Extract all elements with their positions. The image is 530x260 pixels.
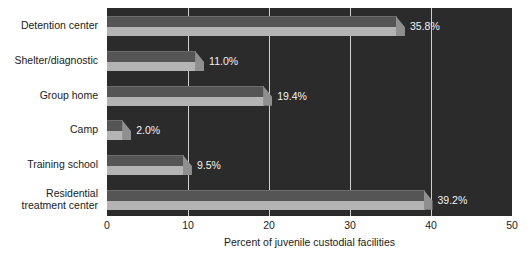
bar [107,120,123,140]
bar-value-label: 9.5% [197,160,221,171]
bar [107,16,397,36]
gridline [188,8,189,216]
bar-tip-bevel [263,86,272,106]
bar-front-face [107,131,123,140]
y-axis-label: Residential treatment center [0,187,103,211]
bar [107,190,425,210]
bar-top-face [107,86,264,97]
chart-figure: Detention centerShelter/diagnosticGroup … [0,0,530,260]
bar-front-face [107,97,264,106]
y-axis-label: Camp [0,123,103,135]
bar-value-label: 35.8% [410,21,440,32]
x-axis-title: Percent of juvenile custodial facilities [107,236,512,248]
y-axis-label: Shelter/diagnostic [0,54,103,66]
x-tick-label: 50 [506,219,518,231]
bar-front-face [107,27,397,36]
y-axis-label: Group home [0,89,103,101]
bar [107,155,184,175]
bar-top-face [107,120,123,131]
bar-top-face [107,190,425,201]
bar-tip-bevel [195,51,204,71]
bar-value-label: 19.4% [277,91,307,102]
bar-value-label: 39.2% [438,195,468,206]
bar-tip-bevel [122,120,131,140]
x-tick-label: 10 [182,219,194,231]
x-axis-tick-labels: 01020304050 [0,219,530,235]
gridline [431,8,432,216]
x-tick-label: 0 [104,219,110,231]
x-tick-label: 40 [425,219,437,231]
y-axis-label: Training school [0,158,103,170]
gridline [269,8,270,216]
bar-tip-bevel [396,16,405,36]
gridline [350,8,351,216]
bar-front-face [107,166,184,175]
bar-top-face [107,51,196,62]
bar [107,86,264,106]
bar-front-face [107,201,425,210]
y-axis-category-labels: Detention centerShelter/diagnosticGroup … [0,8,103,216]
y-axis-label: Detention center [0,19,103,31]
x-tick-label: 30 [344,219,356,231]
bar-front-face [107,62,196,71]
bar-value-label: 2.0% [136,125,160,136]
bar [107,51,196,71]
bar-top-face [107,16,397,27]
plot-area: 35.8%11.0%19.4%2.0%9.5%39.2% [107,8,512,216]
bar-top-face [107,155,184,166]
x-tick-label: 20 [263,219,275,231]
bar-value-label: 11.0% [209,56,238,67]
